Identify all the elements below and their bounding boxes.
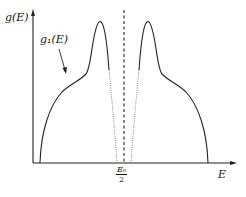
center-tick-label: E₀ 2 — [116, 165, 127, 184]
x-axis-label: E — [218, 168, 226, 181]
y-axis-label: g(E) — [5, 11, 29, 24]
curve-label: g₁(E) — [40, 33, 68, 46]
right-branch-curve — [139, 22, 208, 163]
center-tick-numerator: E₀ — [116, 165, 127, 175]
right-dotted-tail — [131, 70, 139, 163]
label-pointer-line — [59, 49, 65, 70]
label-pointer-arrow-icon — [63, 67, 68, 74]
left-dotted-tail — [109, 70, 117, 163]
y-axis-arrow-icon — [31, 9, 35, 16]
center-tick-denominator: 2 — [119, 175, 124, 184]
x-axis-arrow-icon — [230, 161, 237, 165]
